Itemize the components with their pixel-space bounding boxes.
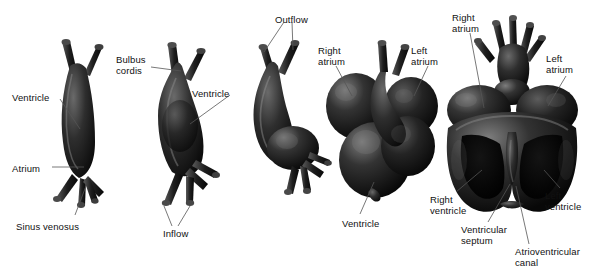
label-ventricle-stage-2: Ventricle bbox=[192, 88, 229, 99]
label-right-ventricle-line1-stage-5: Right bbox=[430, 194, 453, 205]
label-left-ventricle-line1-stage-5: Left bbox=[545, 190, 561, 201]
label-bulbus-cordis-line1-stage-2: Bulbus bbox=[116, 54, 146, 65]
heart-development-figure: Ventricle Atrium Sinus venosus Bulbus co… bbox=[0, 0, 600, 277]
label-inflow-stage-2: Inflow bbox=[163, 228, 188, 239]
label-ventricular-septum-line2-stage-5: septum bbox=[461, 235, 493, 246]
label-right-atrium-line2-stage-4: atrium bbox=[318, 56, 345, 67]
stage-2-specimen bbox=[158, 42, 220, 206]
label-ventricular-septum-line1-stage-5: Ventricular bbox=[461, 224, 507, 235]
label-atrium-stage-1: Atrium bbox=[12, 163, 40, 174]
label-atrioventricular-canal-line2-stage-5: canal bbox=[515, 257, 538, 268]
label-atrioventricular-canal-line1-stage-5: Atrioventricular bbox=[515, 246, 580, 257]
label-sinus-venosus-stage-1: Sinus venosus bbox=[16, 221, 79, 232]
stage-1-specimen bbox=[53, 39, 104, 208]
label-bulbus-cordis-line2-stage-2: cordis bbox=[116, 65, 142, 76]
label-right-ventricle-line2-stage-5: ventricle bbox=[430, 205, 466, 216]
label-right-atrium-line1-stage-4: Right bbox=[318, 45, 341, 56]
label-ventricle-stage-1: Ventricle bbox=[12, 92, 49, 103]
label-left-atrium-line2-stage-5: atrium bbox=[546, 64, 573, 75]
label-left-atrium-line2-stage-4: atrium bbox=[411, 56, 438, 67]
label-ventricle-stage-4: Ventricle bbox=[342, 218, 379, 229]
label-left-atrium-line1-stage-5: Left bbox=[546, 53, 562, 64]
stage-5-specimen bbox=[447, 15, 578, 212]
label-left-ventricle-line2-stage-5: ventricle bbox=[545, 201, 581, 212]
label-right-atrium-line2-stage-5: atrium bbox=[452, 23, 479, 34]
label-outflow-stage-3: Outflow bbox=[275, 14, 308, 25]
figure-canvas bbox=[0, 0, 600, 277]
label-left-atrium-line1-stage-4: Left bbox=[411, 45, 427, 56]
label-right-atrium-line1-stage-5: Right bbox=[452, 12, 475, 23]
